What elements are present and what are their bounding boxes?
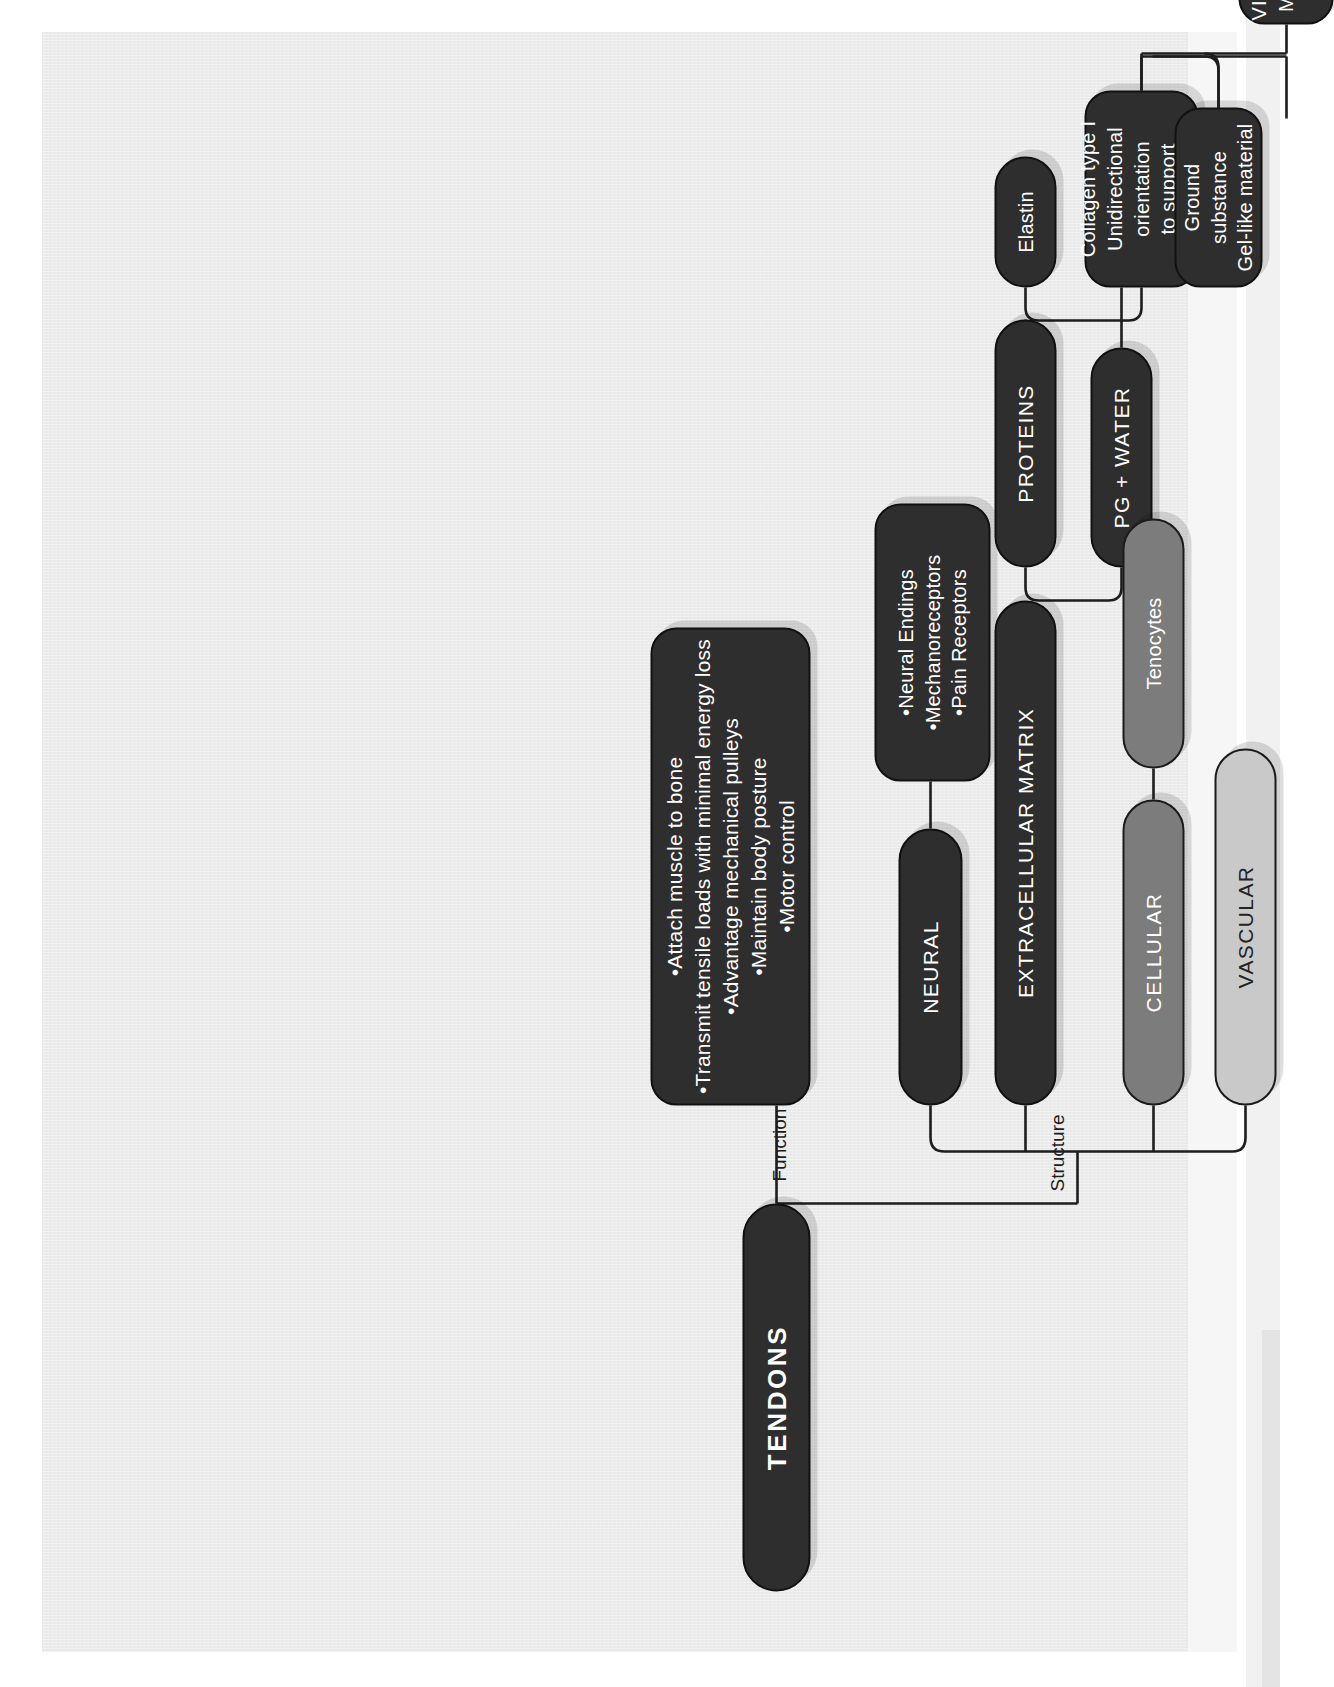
connector-lines-overlay	[43, 34, 1238, 1654]
diagram-rotation-wrapper: TENDONS Function Structure •Attach muscl…	[43, 34, 1238, 1654]
scan-gutter-shadow	[1262, 1330, 1280, 1687]
node-viscoelastic-mechanical-property[interactable]: VISCOELASTIC MECHANICAL PROPERTY	[1239, 0, 1334, 25]
node-viscoelastic-label: VISCOELASTIC MECHANICAL PROPERTY	[1246, 0, 1326, 21]
link-ground-out	[1205, 54, 1219, 108]
mindmap-canvas: TENDONS Function Structure •Attach muscl…	[43, 34, 1238, 1654]
